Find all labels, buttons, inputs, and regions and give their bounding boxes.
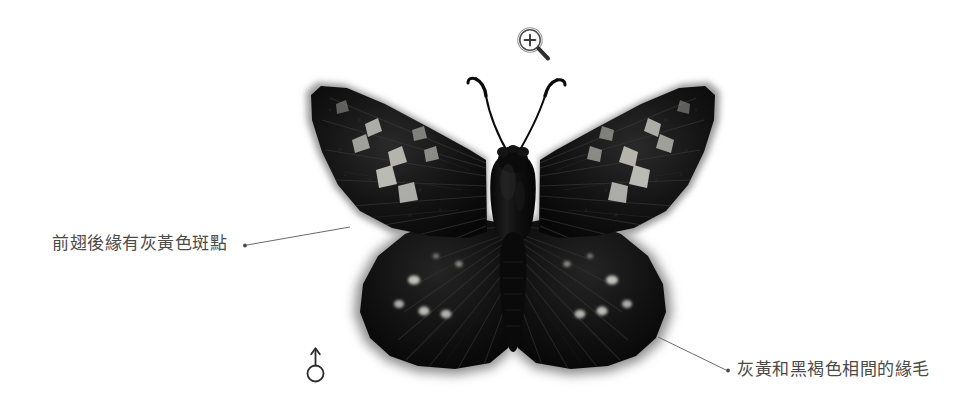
- specimen-image: [0, 0, 964, 418]
- male-symbol: [303, 345, 331, 385]
- annotation-label-forewing-spots: 前翅後緣有灰黃色斑點: [52, 235, 227, 252]
- annotation-label-fringe: 灰黃和黑褐色相間的緣毛: [737, 361, 930, 378]
- zoom-in-button[interactable]: [512, 24, 556, 66]
- hindwing-right: [510, 219, 676, 382]
- butterfly-specimen-graphic: [0, 0, 964, 418]
- specimen-figure-page: 前翅後緣有灰黃色斑點 灰黃和黑褐色相間的緣毛: [0, 0, 964, 418]
- hindwing-left: [350, 219, 516, 382]
- male-symbol-icon: [303, 345, 331, 385]
- magnifier-zoom-in-icon[interactable]: [512, 24, 556, 66]
